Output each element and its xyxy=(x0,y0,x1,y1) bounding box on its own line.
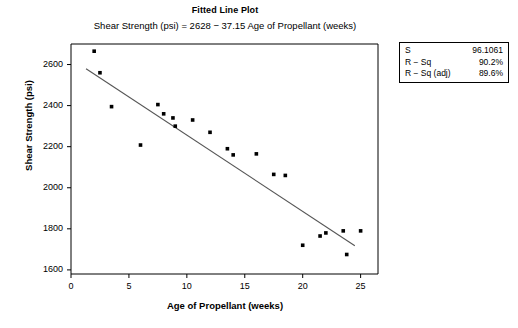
data-point xyxy=(284,174,288,178)
stats-value: 96.1061 xyxy=(472,45,503,57)
data-point xyxy=(92,49,96,53)
data-point xyxy=(231,153,235,157)
data-point xyxy=(301,243,305,247)
data-point xyxy=(255,152,259,156)
data-point xyxy=(226,147,230,151)
data-point xyxy=(110,105,114,109)
data-point xyxy=(191,118,195,122)
data-point xyxy=(171,116,175,120)
data-point xyxy=(318,234,322,238)
stats-value: 90.2% xyxy=(479,57,503,69)
data-point xyxy=(156,103,160,107)
data-point xyxy=(324,231,328,235)
data-point xyxy=(208,131,212,135)
stats-key: S xyxy=(405,45,411,57)
data-point xyxy=(162,112,166,116)
stats-key: R − Sq xyxy=(405,57,431,69)
stats-key: R − Sq (adj) xyxy=(405,68,451,80)
data-point xyxy=(345,253,349,257)
scatter-points xyxy=(92,49,362,256)
regression-fit-line xyxy=(86,69,355,246)
fitted-line-plot: Fitted Line Plot Shear Strength (psi) = … xyxy=(0,0,518,328)
data-point xyxy=(98,71,102,75)
axis-tick-marks xyxy=(67,65,361,278)
axes-frame xyxy=(71,44,378,274)
data-point xyxy=(272,173,276,177)
data-point xyxy=(341,229,345,233)
statistics-box: S96.1061R − Sq90.2%R − Sq (adj)89.6% xyxy=(399,42,509,83)
data-point xyxy=(359,229,363,233)
stats-value: 89.6% xyxy=(479,68,503,80)
stats-row: R − Sq (adj)89.6% xyxy=(400,68,508,80)
stats-row: R − Sq90.2% xyxy=(400,57,508,69)
data-point xyxy=(173,124,177,128)
data-point xyxy=(139,143,143,147)
stats-row: S96.1061 xyxy=(400,45,508,57)
